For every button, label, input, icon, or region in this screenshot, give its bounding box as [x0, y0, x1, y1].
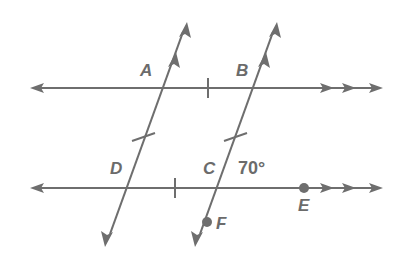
left-transversal — [101, 22, 191, 247]
point-label-d: D — [110, 160, 122, 177]
diagram-canvas — [0, 0, 417, 264]
right-transversal — [191, 22, 281, 247]
point-dot-f — [202, 217, 212, 227]
angle-label-70: 70° — [238, 159, 265, 177]
point-label-b: B — [236, 62, 248, 79]
point-label-f: F — [216, 215, 226, 232]
right-transversal-bottom-arrowhead — [191, 231, 203, 247]
top-line — [30, 83, 383, 93]
right-transversal-top-arrowhead — [269, 22, 281, 38]
bottom-line — [30, 183, 383, 193]
point-label-a: A — [140, 62, 152, 79]
point-label-c: C — [203, 160, 215, 177]
left-transversal-bottom-arrowhead — [101, 231, 113, 247]
geometry-diagram: A B C D E F 70° — [0, 0, 417, 264]
point-label-e: E — [298, 197, 309, 214]
left-transversal-top-arrowhead — [179, 22, 191, 38]
point-dot-e — [299, 183, 309, 193]
